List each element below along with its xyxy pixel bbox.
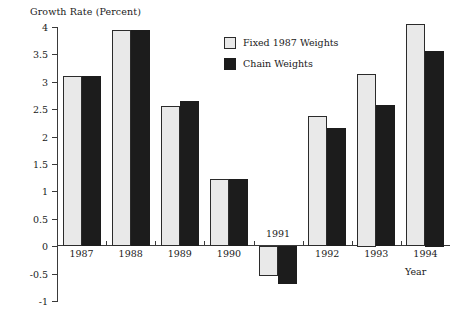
legend-swatch-icon-fixed (224, 37, 236, 49)
x-tick-label: 1994 (413, 248, 437, 259)
y-tick-label: 3.5 (2, 49, 48, 60)
y-tick-mark (52, 191, 58, 192)
bar-1989-chain (180, 101, 199, 246)
bar-1994-chain (425, 51, 444, 247)
y-tick-label: 2 (2, 131, 48, 142)
y-tick-label: 3 (2, 76, 48, 87)
y-tick-label: -1 (2, 296, 48, 307)
x-tick-mark (106, 241, 107, 246)
x-tick-mark (352, 241, 353, 246)
x-tick-label: 1993 (364, 248, 388, 259)
bar-1987-fixed (63, 76, 82, 246)
x-tick-mark (57, 241, 58, 246)
x-tick-label: 1989 (168, 248, 192, 259)
y-tick-mark (52, 219, 58, 220)
bar-1988-chain (131, 30, 150, 246)
x-tick-label: 1992 (315, 248, 339, 259)
y-tick-mark (52, 164, 58, 165)
y-tick-mark (52, 301, 58, 302)
bar-1992-chain (327, 128, 346, 246)
y-tick-label: -0.5 (2, 268, 48, 279)
y-tick-mark (52, 54, 58, 55)
y-tick-mark (52, 82, 58, 83)
x-tick-mark (155, 241, 156, 246)
legend-swatch-icon-chain (224, 58, 236, 70)
legend-item-chain-weights: Chain Weights (224, 55, 338, 72)
y-tick-label: 4 (2, 22, 48, 33)
growth-rate-bar-chart: Growth Rate (Percent) 43.532.521.510.50-… (0, 0, 462, 325)
y-tick-mark (52, 246, 58, 247)
x-tick-mark (401, 241, 402, 246)
bar-1990-fixed (210, 179, 229, 246)
x-tick-label: 1987 (69, 248, 93, 259)
y-tick-label: 1.5 (2, 159, 48, 170)
bar-1992-fixed (308, 116, 327, 246)
bar-1993-fixed (357, 74, 376, 247)
y-tick-label: 0.5 (2, 213, 48, 224)
bar-1989-fixed (161, 106, 180, 246)
y-tick-label: 1 (2, 186, 48, 197)
x-tick-label: 1988 (119, 248, 143, 259)
x-tick-label: 1990 (217, 248, 241, 259)
legend-label-chain: Chain Weights (243, 58, 313, 69)
y-axis-title: Growth Rate (Percent) (30, 6, 141, 17)
chart-legend: Fixed 1987 Weights Chain Weights (224, 34, 338, 76)
bar-1988-fixed (112, 30, 131, 246)
bar-1994-fixed (406, 24, 425, 246)
bar-1990-chain (229, 179, 248, 246)
y-tick-mark (52, 274, 58, 275)
y-tick-label: 0 (2, 241, 48, 252)
y-tick-label: 2.5 (2, 104, 48, 115)
y-tick-mark (52, 137, 58, 138)
y-tick-mark (52, 109, 58, 110)
legend-item-fixed-1987-weights: Fixed 1987 Weights (224, 34, 338, 51)
bar-1987-chain (82, 76, 101, 246)
bar-1991-chain (278, 246, 297, 284)
x-tick-mark (254, 241, 255, 246)
x-tick-label: 1991 (266, 228, 290, 239)
bar-1993-chain (376, 105, 395, 246)
x-axis-title: Year (405, 266, 426, 277)
x-tick-mark (204, 241, 205, 246)
legend-label-fixed: Fixed 1987 Weights (243, 37, 338, 48)
x-tick-mark (303, 241, 304, 246)
bar-1991-fixed (259, 246, 278, 276)
y-tick-mark (52, 27, 58, 28)
